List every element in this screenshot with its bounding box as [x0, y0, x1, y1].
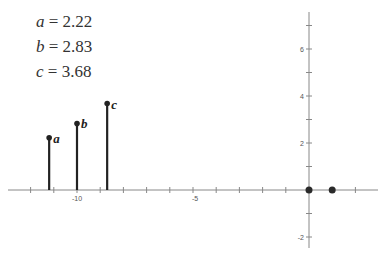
stem-marker: [74, 121, 80, 127]
stem-marker: [104, 101, 110, 107]
axis-point-marker: [329, 187, 336, 194]
y-tick-label: 2: [300, 140, 304, 147]
axis-point-marker: [306, 187, 313, 194]
x-tick-label: -5: [192, 195, 198, 202]
y-tick-label: -2: [298, 234, 304, 241]
stem-label: a: [53, 131, 60, 146]
stem-plot: -10 -5 6 4 2 -2 abc: [0, 0, 391, 259]
stem-series: abc: [46, 97, 117, 190]
stem-label: b: [81, 116, 88, 131]
y-tick-label: 6: [300, 46, 304, 53]
stem-marker: [46, 135, 52, 141]
x-tick-label: -10: [72, 195, 82, 202]
stem-label: c: [111, 97, 117, 112]
y-tick-label: 4: [300, 93, 304, 100]
